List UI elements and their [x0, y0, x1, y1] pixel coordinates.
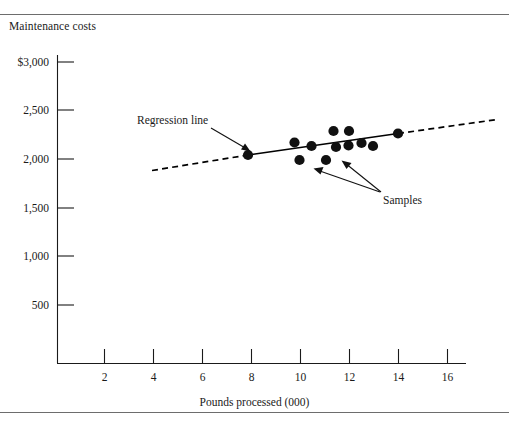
- sample-points-group: [243, 126, 403, 165]
- y-tick-label-1500: 1,500: [23, 202, 49, 215]
- data-point: [393, 128, 403, 138]
- data-point: [243, 150, 253, 160]
- samples-annotation-label: Samples: [383, 194, 422, 207]
- x-axis-ticks: 2 4 6 8 10 12 14 16: [102, 349, 454, 383]
- samples-annotation-arrowhead-1: [314, 167, 324, 175]
- y-tick-label-500: 500: [32, 299, 50, 311]
- y-tick-label-2500: 2,500: [23, 104, 49, 117]
- y-tick-label-3000: $3,000: [17, 56, 49, 69]
- data-point: [356, 138, 366, 148]
- scatter-plot-svg: $3,000 2,500 2,000 1,500 1,000 500 2 4 6…: [0, 0, 509, 422]
- samples-annotation-leader-2: [345, 163, 381, 192]
- x-tick-label-14: 14: [393, 371, 405, 383]
- data-point: [289, 137, 299, 147]
- regression-line-annotation: Regression line: [137, 114, 251, 152]
- data-point: [294, 155, 304, 165]
- x-tick-label-12: 12: [344, 371, 356, 383]
- x-tick-label-2: 2: [102, 371, 108, 383]
- data-point: [306, 141, 316, 151]
- x-tick-label-6: 6: [200, 371, 206, 383]
- samples-annotation: Samples: [314, 161, 423, 208]
- x-tick-label-16: 16: [442, 371, 454, 383]
- regression-line-dashed-left: [152, 155, 248, 171]
- samples-annotation-leader-1: [317, 170, 380, 192]
- y-axis-ticks: $3,000 2,500 2,000 1,500 1,000 500: [17, 56, 74, 311]
- data-point: [331, 142, 341, 152]
- regression-line-annotation-label: Regression line: [137, 114, 208, 127]
- regression-line-annotation-arrowhead: [241, 144, 251, 152]
- y-tick-label-1000: 1,000: [23, 250, 49, 263]
- data-point: [328, 126, 338, 136]
- x-tick-label-10: 10: [295, 371, 307, 383]
- regression-line-annotation-leader: [211, 128, 247, 149]
- axes-group: [57, 55, 466, 364]
- x-tick-label-8: 8: [249, 371, 255, 383]
- data-point: [344, 126, 354, 136]
- y-tick-label-2000: 2,000: [23, 153, 49, 166]
- regression-line-dashed-right: [398, 120, 497, 134]
- data-point: [368, 141, 378, 151]
- x-tick-label-4: 4: [151, 371, 157, 383]
- figure-container: Maintenance costs Pounds processed (000)…: [0, 0, 509, 422]
- data-point: [343, 140, 353, 150]
- data-point: [321, 155, 331, 165]
